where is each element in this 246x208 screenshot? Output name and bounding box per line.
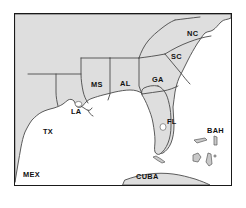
lake-pontchartrain xyxy=(75,101,82,106)
map-frame-border: TX LA MS AL GA FL SC NC MEX CUBA BAH xyxy=(14,13,232,186)
label-tx: TX xyxy=(43,127,53,136)
label-mex: MEX xyxy=(23,170,40,179)
label-ga: GA xyxy=(152,75,164,84)
label-la: LA xyxy=(71,107,82,116)
map-canvas: TX LA MS AL GA FL SC NC MEX CUBA BAH xyxy=(15,14,231,185)
label-bah: BAH xyxy=(207,126,224,135)
label-nc: NC xyxy=(187,29,199,38)
map-figure: TX LA MS AL GA FL SC NC MEX CUBA BAH xyxy=(0,0,246,208)
label-fl: FL xyxy=(167,117,177,126)
label-al: AL xyxy=(120,79,131,88)
bahamas-island-abaco xyxy=(214,136,217,145)
label-ms: MS xyxy=(91,80,103,89)
lake-okeechobee xyxy=(160,124,166,131)
label-sc: SC xyxy=(171,52,182,61)
label-cuba: CUBA xyxy=(136,172,159,181)
bahamas-islet-small xyxy=(214,155,216,157)
